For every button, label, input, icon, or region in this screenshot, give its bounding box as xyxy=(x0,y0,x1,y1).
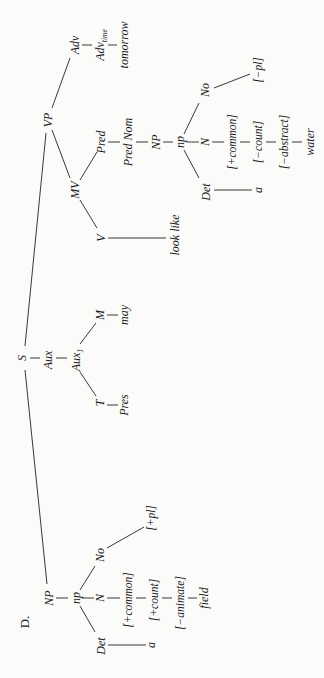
node-Det-predicate: Det xyxy=(199,183,213,202)
feature-minus-count: [−count] xyxy=(252,121,264,163)
node-NP-subject: NP xyxy=(42,590,56,607)
syntax-tree-diagram: D. NP np Det a N No [+pl] [+common] [+co… xyxy=(0,0,324,678)
node-N-subject: N xyxy=(93,593,107,603)
feature-minus-pl: [−pl] xyxy=(252,57,265,83)
node-Adv: Adv xyxy=(68,35,82,55)
node-N-predicate: N xyxy=(198,137,212,147)
node-NP-predicate: NP xyxy=(149,134,163,151)
node-Aux: Aux xyxy=(41,350,55,370)
node-Adv-time: Advtime xyxy=(93,29,109,62)
node-np-subject: np xyxy=(69,592,83,604)
feature-minus-abstract: [−abstract] xyxy=(278,115,290,169)
word-Pres: Pres xyxy=(117,394,131,417)
node-V: V xyxy=(94,233,108,242)
word-may: may xyxy=(117,304,131,325)
word-water: water xyxy=(303,128,317,156)
node-Pred: Pred xyxy=(94,130,108,155)
node-np-predicate: np xyxy=(173,136,187,148)
node-VP: VP xyxy=(41,112,55,127)
figure-label: D. xyxy=(17,616,32,629)
word-look-like: look like xyxy=(168,214,182,256)
node-Aux1: Aux1 xyxy=(69,349,85,373)
feature-plus-common-predicate: [+common] xyxy=(226,114,238,170)
node-a-subject: a xyxy=(144,642,158,648)
feature-plus-common-subject: [+common] xyxy=(122,572,134,628)
node-MV: MV xyxy=(68,180,82,200)
word-field: field xyxy=(197,586,211,608)
feature-minus-animate: [−animate] xyxy=(174,576,186,630)
tree-labels: D. NP np Det a N No [+pl] [+common] [+co… xyxy=(15,22,317,656)
node-S: S xyxy=(15,355,29,361)
word-tomorrow: tomorrow xyxy=(117,22,131,69)
feature-plus-count: [+count] xyxy=(148,579,160,621)
svg-text:Aux1: Aux1 xyxy=(69,349,85,373)
node-No-subject: No xyxy=(93,548,107,563)
node-T: T xyxy=(93,398,107,406)
node-PredNom: Pred Nom xyxy=(121,117,135,167)
feature-plus-pl: [+pl] xyxy=(145,505,158,531)
node-No-predicate: No xyxy=(198,83,212,98)
node-Det-subject: Det xyxy=(94,637,108,656)
svg-text:Advtime: Advtime xyxy=(93,29,109,62)
node-a-predicate: a xyxy=(251,187,265,193)
node-M: M xyxy=(93,309,107,321)
